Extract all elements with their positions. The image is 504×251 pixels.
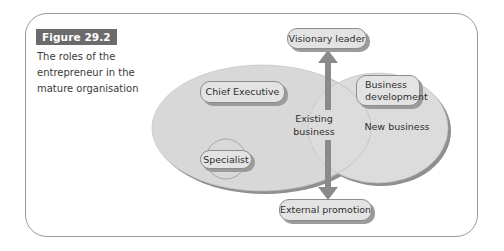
existing-business-line: business — [291, 125, 337, 138]
role-specialist: Specialist — [200, 150, 252, 169]
existing-business-line: Existing — [291, 112, 337, 125]
role-visionary-leader: Visionary leader — [287, 28, 367, 49]
arrow-up-shaft — [325, 60, 331, 110]
business-development-line: Business — [365, 79, 428, 91]
role-chief-executive: Chief Executive — [200, 81, 285, 103]
figure-canvas: Figure 29.2 The roles of the entrepreneu… — [0, 0, 504, 251]
arrow-up-head-icon — [318, 50, 338, 63]
new-business-label: New business — [362, 120, 432, 133]
role-external-promotion: External promotion — [279, 199, 372, 221]
existing-business-label: Existing business — [291, 112, 337, 138]
arrow-down-shaft — [325, 140, 331, 190]
business-development-line: development — [365, 91, 428, 103]
role-business-development: Business development — [356, 75, 420, 106]
